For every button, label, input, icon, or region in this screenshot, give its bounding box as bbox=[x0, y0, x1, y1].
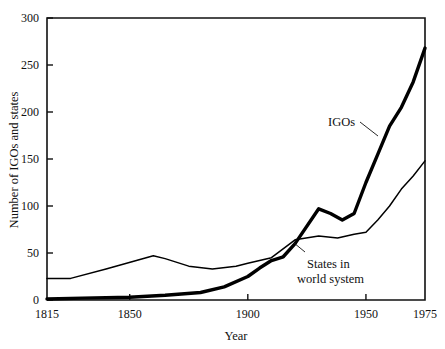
x-tick-label: 1975 bbox=[413, 307, 437, 321]
x-tick-label: 1900 bbox=[236, 307, 260, 321]
x-tick-label: 1950 bbox=[354, 307, 378, 321]
annotation-igos: IGOs bbox=[328, 115, 355, 129]
x-tick-label: 1815 bbox=[35, 307, 59, 321]
x-axis-title: Year bbox=[224, 329, 248, 343]
annotation-states-line2: world system bbox=[297, 272, 364, 286]
y-tick-label: 250 bbox=[21, 58, 39, 72]
annotation-states-line1: States in bbox=[307, 257, 350, 271]
chart-container: 050100150200250300 18151850190019501975 … bbox=[0, 0, 445, 349]
y-tick-label: 200 bbox=[21, 105, 39, 119]
line-chart-figure: 050100150200250300 18151850190019501975 … bbox=[0, 0, 445, 349]
chart-background bbox=[0, 0, 445, 349]
x-tick-label: 1850 bbox=[118, 307, 142, 321]
y-tick-label: 300 bbox=[21, 11, 39, 25]
y-tick-label: 100 bbox=[21, 199, 39, 213]
y-tick-label: 50 bbox=[27, 246, 39, 260]
y-tick-label: 150 bbox=[21, 152, 39, 166]
y-tick-label: 0 bbox=[33, 293, 39, 307]
y-axis-title: Number of IGOs and states bbox=[7, 91, 21, 228]
